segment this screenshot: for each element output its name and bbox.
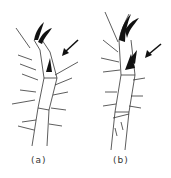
panel-a: (a) [0,0,90,178]
arrow-icon [145,44,161,58]
panel-label-a: (a) [31,155,47,165]
panel-label-b: (b) [113,155,129,165]
arrow-icon [62,40,78,56]
leg-drawing-b [85,0,171,178]
panel-b: (b) [85,0,171,178]
leg-drawing-a [0,0,90,178]
